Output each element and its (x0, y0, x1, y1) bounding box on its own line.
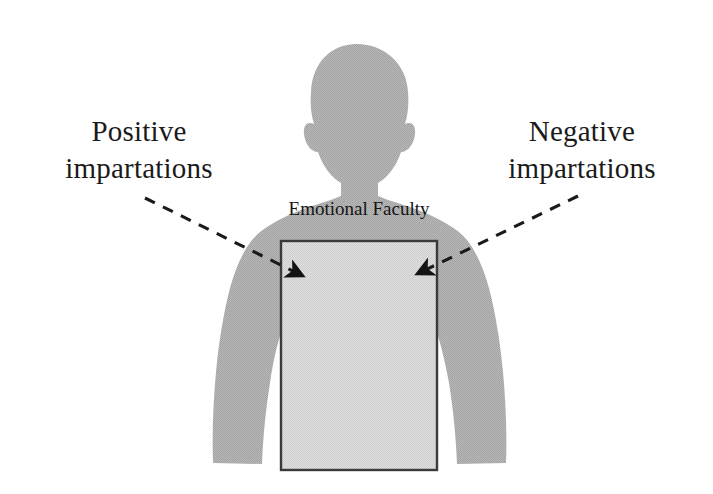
callout-positive-line-2: impartations (26, 150, 252, 187)
diagram-svg (0, 0, 713, 494)
emotional-faculty-region (281, 241, 437, 470)
callout-positive-line-1: Positive (26, 113, 252, 150)
callout-negative-line-2: impartations (466, 150, 698, 187)
callout-positive-impartations: Positive impartations (26, 113, 252, 187)
emotional-faculty-label: Emotional Faculty (246, 199, 472, 220)
callout-negative-line-1: Negative (466, 113, 698, 150)
figure-canvas: Positive impartations Negative impartati… (0, 0, 713, 494)
callout-negative-impartations: Negative impartations (466, 113, 698, 187)
